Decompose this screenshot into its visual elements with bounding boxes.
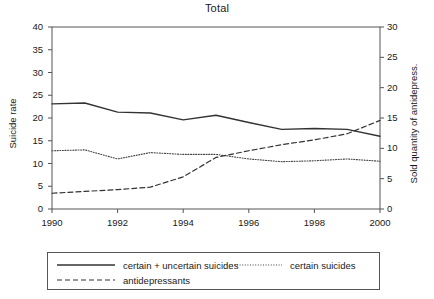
y-tick-label: 20 bbox=[19, 112, 43, 123]
y-tick-label: 5 bbox=[19, 180, 43, 191]
chart-figure: Total Suicide rate Sold quantity of anti… bbox=[0, 0, 434, 299]
x-tick-label: 1994 bbox=[163, 217, 203, 228]
data-series-layer bbox=[52, 103, 380, 193]
legend-line-dotted bbox=[223, 260, 283, 270]
y-tick-label: 30 bbox=[19, 67, 43, 78]
x-axis-ticks bbox=[52, 209, 380, 213]
legend-label: certain suicides bbox=[290, 260, 355, 271]
y2-tick-label: 15 bbox=[387, 112, 411, 123]
y-axis-ticks-left bbox=[48, 27, 52, 209]
y-tick-label: 15 bbox=[19, 135, 43, 146]
y2-tick-label: 5 bbox=[387, 173, 411, 184]
x-tick-label: 1990 bbox=[32, 217, 72, 228]
y-tick-label: 35 bbox=[19, 44, 43, 55]
y-axis-ticks-right bbox=[380, 27, 384, 209]
y-tick-label: 40 bbox=[19, 21, 43, 32]
y2-tick-label: 10 bbox=[387, 142, 411, 153]
legend-label: certain + uncertain suicides bbox=[123, 260, 238, 271]
series-line-certain-suicides bbox=[52, 150, 380, 162]
x-tick-label: 1992 bbox=[98, 217, 138, 228]
y-tick-label: 10 bbox=[19, 158, 43, 169]
legend-item-certain-uncertain-suicides: certain + uncertain suicides bbox=[56, 258, 238, 272]
x-tick-label: 2000 bbox=[360, 217, 400, 228]
legend-item-antidepressants: antidepressants bbox=[56, 273, 190, 287]
series-line-certain-uncertain-suicides bbox=[52, 103, 380, 136]
legend-line-dashed bbox=[56, 275, 116, 285]
y-tick-label: 0 bbox=[19, 203, 43, 214]
y-tick-label: 25 bbox=[19, 89, 43, 100]
legend-item-certain-suicides: certain suicides bbox=[223, 258, 355, 272]
axes-frame bbox=[52, 27, 380, 209]
legend-label: antidepressants bbox=[123, 275, 190, 286]
y2-tick-label: 0 bbox=[387, 203, 411, 214]
x-tick-label: 1996 bbox=[229, 217, 269, 228]
series-line-antidepressants bbox=[52, 120, 380, 193]
chart-legend: certain + uncertain suicides certain sui… bbox=[47, 252, 380, 290]
y2-tick-label: 25 bbox=[387, 51, 411, 62]
x-tick-label: 1998 bbox=[294, 217, 334, 228]
y2-tick-label: 20 bbox=[387, 82, 411, 93]
y2-tick-label: 30 bbox=[387, 21, 411, 32]
legend-line-solid bbox=[56, 260, 116, 270]
